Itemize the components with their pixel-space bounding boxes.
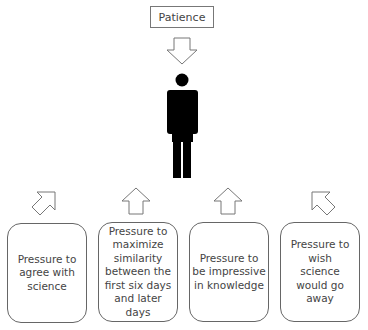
pressure-card-agree: Pressure to agree with science	[7, 223, 87, 323]
pressure-label: Pressure to wish science would go away	[287, 238, 353, 306]
pressure-card-wish: Pressure to wish science would go away	[280, 222, 360, 322]
pressure-label: Pressure to agree with science	[16, 253, 78, 294]
arrow-up-icon	[122, 188, 150, 214]
person-icon	[167, 74, 198, 179]
pressure-label: Pressure to be impressive in knowledge	[192, 252, 266, 293]
pressure-card-impressive: Pressure to be impressive in knowledge	[189, 222, 269, 322]
arrow-down-icon	[167, 38, 197, 64]
pressure-label: Pressure to maximize similarity between …	[101, 225, 175, 320]
pressure-card-similarity: Pressure to maximize similarity between …	[98, 222, 178, 322]
arrow-up-icon	[214, 188, 242, 214]
arrow-up-right-icon	[32, 192, 55, 215]
arrow-up-left-icon	[312, 192, 335, 215]
